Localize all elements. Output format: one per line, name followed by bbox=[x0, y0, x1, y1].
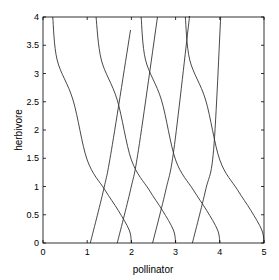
x-tick-label: 5 bbox=[261, 247, 266, 257]
curve-decreasing-1 bbox=[53, 17, 132, 243]
x-tick-label: 3 bbox=[173, 247, 178, 257]
x-tick-label: 1 bbox=[85, 247, 90, 257]
curve-increasing-3 bbox=[153, 16, 190, 243]
curve-decreasing-2 bbox=[96, 17, 176, 243]
plot-area-frame bbox=[43, 17, 264, 243]
curve-increasing-4 bbox=[192, 17, 220, 243]
x-tick-label: 2 bbox=[129, 247, 134, 257]
chart: 012345 00.511.522.533.54 pollinator herb… bbox=[0, 0, 279, 280]
y-tick-label: 2.5 bbox=[26, 97, 39, 107]
x-axis-label: pollinator bbox=[133, 264, 174, 275]
y-tick-label: 4 bbox=[34, 12, 39, 22]
y-tick-label: 1 bbox=[34, 182, 39, 192]
y-axis-ticks: 00.511.522.533.54 bbox=[26, 12, 264, 248]
y-tick-label: 3 bbox=[34, 69, 39, 79]
x-axis-ticks: 012345 bbox=[40, 17, 266, 257]
curve-decreasing-4 bbox=[185, 17, 264, 243]
curve-group bbox=[53, 16, 264, 243]
curve-increasing-1 bbox=[90, 30, 130, 243]
x-tick-label: 4 bbox=[217, 247, 222, 257]
y-tick-label: 3.5 bbox=[26, 40, 39, 50]
x-tick-label: 0 bbox=[40, 247, 45, 257]
y-tick-label: 0.5 bbox=[26, 210, 39, 220]
curve-increasing-2 bbox=[117, 17, 157, 243]
y-tick-label: 0 bbox=[34, 238, 39, 248]
y-axis-label: herbivore bbox=[13, 109, 24, 151]
y-tick-label: 2 bbox=[34, 125, 39, 135]
y-tick-label: 1.5 bbox=[26, 153, 39, 163]
